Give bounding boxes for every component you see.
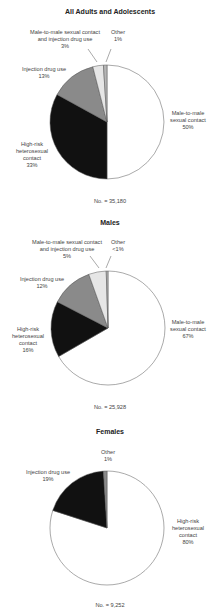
label-msm-all: Male-to-male sexual contact 50% <box>164 110 212 131</box>
label-idu-females: Injection drug use 19% <box>18 469 78 483</box>
pie-slice <box>107 65 164 179</box>
label-other-all: Other 1% <box>106 29 130 43</box>
chart-title-males: Males <box>0 219 220 226</box>
label-other-males: Other <1% <box>106 239 130 253</box>
label-other-females: Other 1% <box>92 449 124 463</box>
label-het-all: High-risk heterosexual contact 33% <box>10 141 54 169</box>
leader-line <box>106 49 111 62</box>
label-idu-males: Injection drug use 12% <box>12 276 72 290</box>
total-count-all: No. = 35,180 <box>0 198 220 204</box>
label-het-females: High-risk heterosexual contact 80% <box>166 518 210 546</box>
total-count-males: No. = 25,928 <box>0 404 220 410</box>
label-het-males: High-risk heterosexual contact 16% <box>6 326 50 354</box>
total-count-females: No. = 9,252 <box>0 602 220 608</box>
leader-line <box>88 49 97 62</box>
label-msm-idu-all: Male-to-male sexual contact and injectio… <box>17 29 113 50</box>
chart-title-females: Females <box>0 428 220 435</box>
label-msm-males: Male-to-male sexual contact 67% <box>164 319 212 340</box>
label-idu-all: Injection drug use 13% <box>14 66 74 80</box>
label-msm-idu-males: Male-to-male sexual contact and injectio… <box>19 239 115 260</box>
